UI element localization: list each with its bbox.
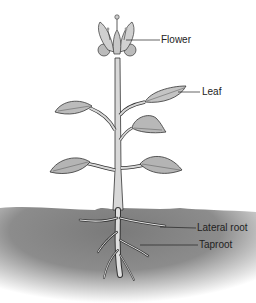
label-flower: Flower	[161, 34, 191, 46]
label-lateral-root: Lateral root	[197, 222, 248, 234]
plant-illustration	[0, 0, 256, 303]
flower	[98, 15, 136, 56]
plant-diagram: Flower Leaf Lateral root Taproot	[0, 0, 256, 303]
label-leaf: Leaf	[202, 86, 221, 98]
label-taproot: Taproot	[199, 239, 232, 251]
stem	[85, 58, 148, 210]
